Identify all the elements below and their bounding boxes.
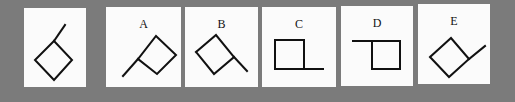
question-figure-icon — [24, 8, 86, 87]
option-b-figure-icon — [185, 7, 258, 87]
option-a-panel[interactable]: A — [106, 7, 181, 87]
option-b-panel[interactable]: B — [185, 7, 258, 87]
option-c-panel[interactable]: C — [262, 7, 336, 87]
option-d-figure-icon — [341, 6, 413, 86]
option-e-figure-icon — [418, 4, 490, 84]
question-panel — [24, 8, 86, 87]
option-e-panel[interactable]: E — [418, 4, 490, 84]
option-a-figure-icon — [106, 7, 181, 87]
option-c-figure-icon — [262, 7, 336, 87]
option-d-panel[interactable]: D — [341, 6, 413, 86]
